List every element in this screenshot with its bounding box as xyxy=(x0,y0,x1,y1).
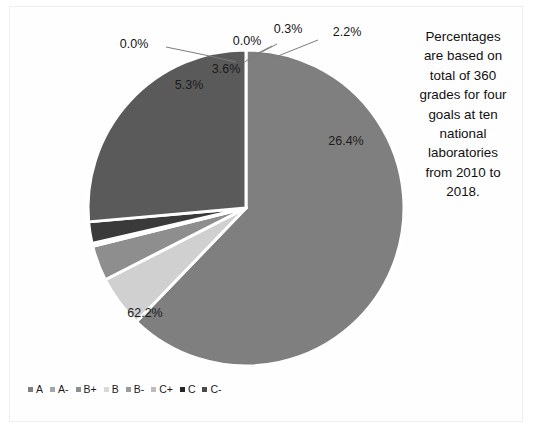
legend-item-cplus[interactable]: C+ xyxy=(151,384,173,395)
legend-item-b[interactable]: B xyxy=(104,384,119,395)
legend-label: B xyxy=(112,384,119,395)
legend-swatch-icon xyxy=(50,387,55,392)
sidenote-text: Percentages are based on total of 360 gr… xyxy=(404,27,522,202)
legend-item-bminus[interactable]: B- xyxy=(126,384,145,395)
legend-swatch-icon xyxy=(202,387,207,392)
legend-swatch-icon xyxy=(28,387,33,392)
label-three-six: 3.6% xyxy=(212,62,241,76)
legend-item-cminus[interactable]: C- xyxy=(202,384,221,395)
legend-label: B- xyxy=(134,384,145,395)
legend-item-bplus[interactable]: B+ xyxy=(76,384,97,395)
legend-item-aminus[interactable]: A- xyxy=(50,384,69,395)
legend-item-a[interactable]: A xyxy=(28,384,43,395)
label-point-three: 0.3% xyxy=(274,22,303,36)
legend-swatch-icon xyxy=(126,387,131,392)
legend-label: A- xyxy=(58,384,69,395)
label-five-three: 5.3% xyxy=(175,78,204,92)
legend-label: C- xyxy=(210,384,221,395)
legend-swatch-icon xyxy=(151,387,156,392)
legend-label: C+ xyxy=(159,384,173,395)
label-sixty-two-two: 62.2% xyxy=(127,306,162,320)
legend-swatch-icon xyxy=(104,387,109,392)
legend-label: B+ xyxy=(84,384,97,395)
label-two-two: 2.2% xyxy=(333,25,362,39)
label-twenty-six-four: 26.4% xyxy=(328,134,363,148)
label-zero-center: 0.0% xyxy=(233,34,262,48)
legend-label: A xyxy=(36,384,43,395)
legend-item-c[interactable]: C xyxy=(180,384,196,395)
label-zero-left: 0.0% xyxy=(120,37,149,51)
chart-legend: AA-B+BB-C+CC- xyxy=(28,384,278,395)
legend-swatch-icon xyxy=(180,387,185,392)
legend-label: C xyxy=(188,384,196,395)
legend-swatch-icon xyxy=(76,387,81,392)
